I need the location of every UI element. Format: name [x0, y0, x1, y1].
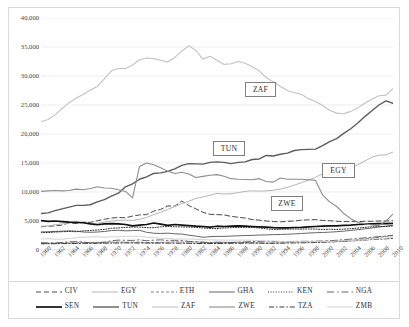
legend-item-eth[interactable]: ETH — [151, 288, 195, 296]
callout-label-zaf: ZAF — [253, 86, 268, 94]
legend-swatch-nga — [327, 288, 353, 296]
legend-label: TUN — [122, 303, 138, 310]
series-line-zmb — [41, 236, 393, 242]
callout-label-egy: EGY — [330, 167, 347, 175]
series-callout-egy: EGY — [322, 163, 355, 178]
y-tick-label: 30,000 — [21, 73, 39, 80]
legend-swatch-ken — [268, 288, 294, 296]
legend-label: KEN — [297, 288, 313, 295]
legend-item-zwe[interactable]: ZWE — [209, 303, 254, 311]
legend-swatch-eth — [151, 288, 177, 296]
legend-swatch-sen — [36, 303, 62, 311]
y-tick-label: 20,000 — [21, 131, 39, 138]
chart-legend: CIVEGYETHGHAKENNGA SENTUNZAFZWETZAZMB — [9, 281, 399, 317]
legend-item-tza[interactable]: TZA — [269, 303, 313, 311]
legend-item-civ[interactable]: CIV — [36, 288, 78, 296]
legend-item-sen[interactable]: SEN — [36, 303, 79, 311]
legend-label: SEN — [65, 303, 79, 310]
y-tick-label: 5,000 — [24, 218, 39, 225]
legend-item-zmb[interactable]: ZMB — [327, 303, 372, 311]
legend-label: EGY — [121, 288, 137, 295]
legend-label: NGA — [356, 288, 372, 295]
legend-label: ETH — [180, 288, 195, 295]
y-axis-labels: 40,00035,00030,00025,00020,00015,00010,0… — [8, 18, 41, 250]
series-line-civ — [41, 201, 393, 227]
legend-label: ZMB — [356, 303, 372, 310]
line-chart-svg — [41, 18, 393, 250]
legend-item-gha[interactable]: GHA — [209, 288, 254, 296]
legend-swatch-egy — [92, 288, 118, 296]
legend-item-tun[interactable]: TUN — [93, 303, 138, 311]
legend-label: CIV — [65, 288, 78, 295]
legend-swatch-tza — [269, 303, 295, 311]
legend-label: GHA — [238, 288, 254, 295]
x-axis-labels: 1960196219641966196819701972197419761978… — [41, 252, 393, 282]
series-line-tun — [41, 101, 393, 214]
series-callout-tun: TUN — [213, 141, 245, 156]
legend-swatch-gha — [209, 288, 235, 296]
y-tick-label: 15,000 — [21, 160, 39, 167]
legend-swatch-civ — [36, 288, 62, 296]
legend-swatch-zaf — [152, 303, 178, 311]
legend-item-zaf[interactable]: ZAF — [152, 303, 195, 311]
callout-label-tun: TUN — [221, 145, 238, 153]
legend-item-egy[interactable]: EGY — [92, 288, 137, 296]
legend-swatch-zmb — [327, 303, 353, 311]
y-tick-label: 40,000 — [21, 15, 39, 22]
legend-item-ken[interactable]: KEN — [268, 288, 313, 296]
y-tick-label: 35,000 — [21, 44, 39, 51]
legend-swatch-zwe — [209, 303, 235, 311]
series-callout-zaf: ZAF — [245, 82, 276, 97]
y-tick-label: 25,000 — [21, 102, 39, 109]
legend-row-2: SENTUNZAFZWETZAZMB — [9, 299, 399, 315]
series-callout-zwe: ZWE — [271, 196, 303, 211]
plot-area — [41, 18, 393, 250]
series-line-zaf — [41, 46, 393, 122]
legend-item-nga[interactable]: NGA — [327, 288, 372, 296]
legend-row-1: CIVEGYETHGHAKENNGA — [9, 284, 399, 300]
legend-label: TZA — [298, 303, 313, 310]
legend-label: ZWE — [238, 303, 254, 310]
legend-label: ZAF — [181, 303, 195, 310]
chart-root: 40,00035,00030,00025,00020,00015,00010,0… — [0, 0, 409, 327]
callout-label-zwe: ZWE — [278, 200, 295, 208]
legend-swatch-tun — [93, 303, 119, 311]
series-line-gha — [41, 225, 393, 237]
y-tick-label: 10,000 — [21, 189, 39, 196]
